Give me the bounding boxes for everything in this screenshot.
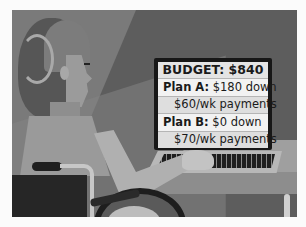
budget-panel: BUDGET: $840 Plan A: $180 down $60/wk pa…	[158, 62, 268, 148]
plan-a-label: Plan A:	[163, 82, 209, 94]
wheelchair-handle	[32, 162, 62, 171]
plan-a-row: Plan A: $180 down	[158, 78, 268, 95]
person-ear	[60, 66, 69, 80]
plan-b-label: Plan B:	[163, 117, 209, 129]
person-eye	[84, 63, 90, 65]
plan-b-value: $0 down	[212, 117, 261, 129]
illustration-frame: BUDGET: $840 Plan A: $180 down $60/wk pa…	[12, 10, 297, 217]
plan-a-value: $180 down	[213, 82, 277, 94]
budget-title: BUDGET: $840	[158, 62, 268, 78]
hair-ring-icon	[20, 34, 54, 84]
plan-b-payments: $70/wk payments	[158, 131, 268, 148]
plan-a-payments: $60/wk payments	[158, 96, 268, 113]
desk-leg	[284, 194, 290, 217]
person-hand	[182, 150, 214, 170]
wheelchair-frame	[60, 164, 94, 217]
plan-b-row: Plan B: $0 down	[158, 113, 268, 130]
